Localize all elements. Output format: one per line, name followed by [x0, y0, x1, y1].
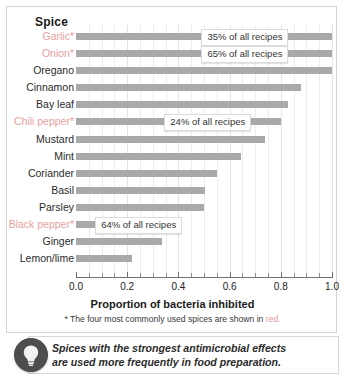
bar-category-label: Ginger: [0, 235, 74, 248]
bar-category-label: Parsley: [0, 201, 74, 214]
y-axis-title: Spice: [35, 15, 68, 29]
bar-track: [76, 84, 332, 91]
bar: [76, 238, 162, 245]
bar-row: Cinnamon: [7, 80, 338, 97]
x-tick: [153, 273, 154, 277]
bar-category-label: Bay leaf: [0, 98, 74, 111]
bar-category-label: Onion*: [0, 47, 74, 60]
x-tick: [242, 273, 243, 277]
x-tick: [281, 272, 282, 277]
x-tick: [217, 273, 218, 277]
bar-category-label: Oregano: [0, 64, 74, 77]
bar-category-label: Basil: [0, 184, 74, 197]
bar: [76, 67, 332, 74]
bar-category-label: Cinnamon: [0, 81, 74, 94]
bar-category-label: Lemon/lime: [0, 252, 74, 265]
x-tick: [76, 272, 77, 277]
bar: [76, 101, 288, 108]
caption-text: Spices with the strongest antimicrobial …: [52, 341, 332, 369]
bar-row: Mint: [7, 149, 338, 166]
bar: [76, 136, 265, 143]
bar: [76, 170, 217, 177]
bar-track: [76, 136, 332, 143]
bar-track: [76, 187, 332, 194]
x-tick: [255, 273, 256, 277]
bar-category-label: Mint: [0, 150, 74, 163]
x-tick-label: 0.0: [69, 281, 83, 292]
x-tick: [114, 273, 115, 277]
plot-area: Spice Garlic*Onion*OreganoCinnamonBay le…: [7, 7, 338, 334]
bar-track: [76, 204, 332, 211]
bar-row: Lemon/lime: [7, 251, 338, 268]
bar-row: Basil: [7, 183, 338, 200]
bar-track: [76, 238, 332, 245]
bar: [76, 84, 301, 91]
bar-track: [76, 255, 332, 262]
bar-category-label: Coriander: [0, 167, 74, 180]
x-tick: [294, 273, 295, 277]
x-axis-title: Proportion of bacteria inhibited: [7, 298, 338, 310]
x-tick-label: 0.8: [274, 281, 288, 292]
x-tick: [191, 273, 192, 277]
footnote: * The four most commonly used spices are…: [0, 314, 345, 324]
bar-row: Mustard: [7, 132, 338, 149]
x-tick: [230, 272, 231, 277]
x-tick: [268, 273, 269, 277]
bar-category-label: Black pepper*: [0, 218, 74, 231]
bar: [76, 187, 205, 194]
x-tick-label: 0.4: [171, 281, 185, 292]
x-axis-line: [76, 277, 333, 278]
x-tick-label: 0.2: [120, 281, 134, 292]
x-tick: [204, 273, 205, 277]
bar-row: Bay leaf: [7, 97, 338, 114]
x-tick: [332, 272, 333, 277]
bar-category-label: Garlic*: [0, 30, 74, 43]
x-tick-label: 0.6: [223, 281, 237, 292]
bar-track: [76, 101, 332, 108]
bar-track: [76, 170, 332, 177]
bar-row: Ginger: [7, 234, 338, 251]
bar-annotation: 35% of all recipes: [201, 29, 288, 46]
bar-annotation: 24% of all recipes: [164, 114, 251, 131]
footnote-text: * The four most commonly used spices are…: [64, 314, 265, 324]
bar-track: [76, 153, 332, 160]
x-tick: [319, 273, 320, 277]
figure-root: Spice Garlic*Onion*OreganoCinnamonBay le…: [0, 0, 345, 377]
bar-row: Coriander: [7, 166, 338, 183]
lightbulb-icon: [14, 338, 48, 372]
bar-track: [76, 67, 332, 74]
x-tick: [102, 273, 103, 277]
x-tick: [140, 273, 141, 277]
bar-annotation: 65% of all recipes: [201, 46, 288, 63]
bar-annotation: 64% of all recipes: [95, 217, 182, 234]
bar-category-label: Chili pepper*: [0, 115, 74, 128]
x-tick: [89, 273, 90, 277]
x-tick: [306, 273, 307, 277]
bar: [76, 204, 204, 211]
x-tick: [127, 272, 128, 277]
bar-category-label: Mustard: [0, 133, 74, 146]
caption-banner: Spices with the strongest antimicrobial …: [6, 336, 339, 375]
caption-line-2: are used more frequently in food prepara…: [52, 356, 281, 368]
bar-row: Oregano: [7, 63, 338, 80]
bar: [76, 255, 132, 262]
x-tick-label: 1.0: [325, 281, 339, 292]
footnote-red-word: red.: [266, 314, 281, 324]
x-tick: [166, 273, 167, 277]
chart-panel: Spice Garlic*Onion*OreganoCinnamonBay le…: [6, 6, 337, 333]
x-tick: [178, 272, 179, 277]
bar-row: Parsley: [7, 200, 338, 217]
caption-line-1: Spices with the strongest antimicrobial …: [52, 342, 286, 354]
bar: [76, 153, 241, 160]
